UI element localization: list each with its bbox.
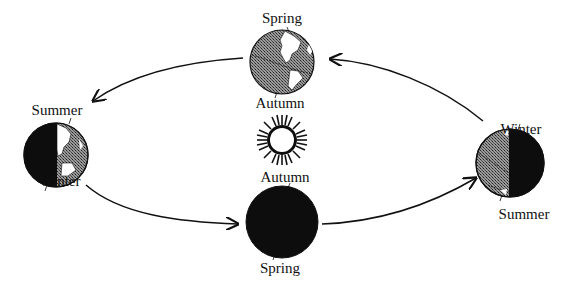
globe-top-label-bottom: Autumn (255, 95, 305, 111)
globe-right-label-top: Winter (500, 121, 541, 137)
arrow-right-to-top (330, 59, 483, 121)
arrow-top-to-left (93, 58, 243, 101)
night-side (509, 125, 549, 205)
globe-right-label-bottom: Summer (499, 206, 550, 222)
globe-left-label-top: Summer (32, 102, 83, 118)
globe-left-label-bottom: Winter (39, 173, 80, 189)
orbit-diagram: Spring Autumn Summer Winter (0, 0, 565, 289)
globe-right: Winter Summer (476, 121, 549, 222)
globe-bottom-label-bottom: Spring (260, 260, 301, 276)
arrow-left-to-bottom (86, 185, 238, 224)
sun-icon (257, 115, 307, 165)
arrow-bottom-to-right (322, 178, 476, 224)
globe-top-label-top: Spring (262, 10, 303, 26)
globe-left: Summer Winter (20, 102, 88, 191)
globe-bottom: Autumn Spring (246, 169, 318, 276)
globe-bottom-label-top: Autumn (260, 169, 310, 185)
globe-top: Spring Autumn (250, 10, 314, 111)
